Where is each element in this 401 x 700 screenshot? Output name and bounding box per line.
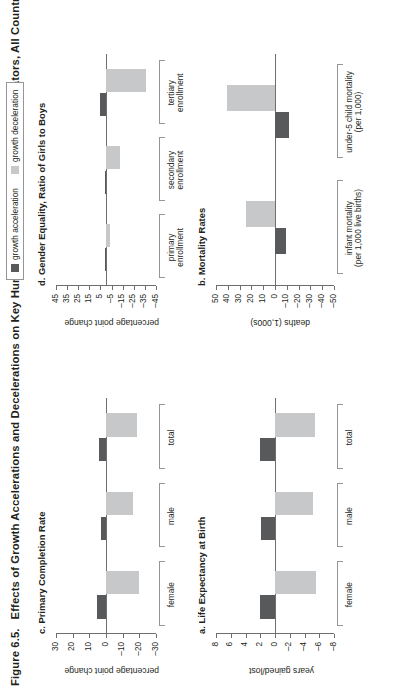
- y-axis-tick: [228, 286, 229, 290]
- category-label: primaryenrollment: [167, 209, 186, 286]
- category-bracket: [337, 483, 343, 548]
- y-axis-label: years gained/lost: [249, 666, 314, 676]
- y-axis-tick-label: –25: [129, 294, 137, 320]
- y-axis-tick: [334, 286, 335, 290]
- y-axis-tick-label: 40: [223, 294, 231, 320]
- y-axis-tick-label: –10: [282, 294, 290, 320]
- bar-growth-acceleration: [275, 229, 286, 255]
- y-axis-tick-label: 2: [256, 642, 264, 668]
- figure-canvas: Figure 6.5.Effects of Growth Acceleratio…: [0, 0, 401, 700]
- category-label: total: [167, 398, 176, 477]
- legend-swatch-accel: [11, 264, 19, 272]
- legend-label: growth acceleration: [10, 188, 20, 260]
- plot-area: 3020100–10–20–30percentage point changef…: [56, 398, 156, 634]
- y-axis-tick: [305, 634, 306, 638]
- y-axis-tick-label: –5: [107, 294, 115, 320]
- plot-area: 86420–2–4–6–8years gained/lostfemalemale…: [216, 398, 334, 634]
- y-axis-tick-label: –4: [300, 642, 308, 668]
- y-axis-tick-label: 20: [68, 642, 76, 668]
- y-axis-tick: [251, 286, 252, 290]
- y-axis-tick: [334, 634, 335, 638]
- y-axis-tick: [89, 634, 90, 638]
- category-bracket: [159, 561, 165, 626]
- bar-growth-deceleration: [275, 413, 315, 437]
- y-axis-tick: [299, 286, 300, 290]
- y-axis-tick-label: 30: [235, 294, 243, 320]
- panel-primary-completion: c. Primary Completion Rate3020100–10–20–…: [36, 366, 186, 686]
- category-label: female: [345, 555, 354, 634]
- y-axis-tick-label: –6: [315, 642, 323, 668]
- y-axis-tick: [145, 286, 146, 290]
- y-axis-tick-label: 4: [241, 642, 249, 668]
- y-axis-label: percentage point change: [64, 666, 159, 676]
- y-axis-tick-label: 20: [247, 294, 255, 320]
- category-label: female: [167, 555, 176, 634]
- bar-growth-deceleration: [227, 86, 275, 112]
- bar-growth-deceleration: [106, 69, 146, 92]
- panel-title: c. Primary Completion Rate: [36, 512, 47, 634]
- y-axis-tick-label: 5: [96, 294, 104, 320]
- bar-growth-acceleration: [260, 438, 275, 462]
- y-axis-tick: [134, 286, 135, 290]
- legend-swatch-decel: [11, 166, 19, 174]
- panel-mortality-rates: b. Mortality Rates50403020100–10–20–30–4…: [196, 12, 386, 342]
- bar-growth-deceleration: [246, 202, 276, 228]
- figure-number: Figure 6.5.: [9, 628, 21, 686]
- legend-item: growth deceleration: [10, 90, 20, 174]
- y-axis-tick: [260, 634, 261, 638]
- panel-title: d. Gender Equality, Ratio of Girls to Bo…: [36, 103, 47, 286]
- y-axis-tick: [78, 286, 79, 290]
- y-axis-tick: [216, 634, 217, 638]
- category-bracket: [159, 483, 165, 548]
- category-bracket: [159, 214, 165, 278]
- y-axis-tick-label: 50: [212, 294, 220, 320]
- category-label: male: [167, 477, 176, 556]
- category-bracket: [337, 561, 343, 626]
- y-axis-tick-label: 0: [271, 294, 279, 320]
- panel-title: a. Life Expectancy at Birth: [196, 517, 207, 634]
- bar-growth-acceleration: [100, 93, 106, 116]
- y-axis-tick: [310, 286, 311, 290]
- category-label: secondaryenrollment: [167, 131, 186, 208]
- legend-label: growth deceleration: [10, 90, 20, 162]
- y-axis-tick-label: 6: [226, 642, 234, 668]
- y-axis-label: percentage point change: [64, 318, 159, 328]
- category-bracket: [337, 64, 343, 159]
- y-axis-tick-label: –50: [330, 294, 338, 320]
- y-axis-tick-label: 30: [52, 642, 60, 668]
- category-label: male: [345, 477, 354, 556]
- y-axis-tick-label: –10: [118, 642, 126, 668]
- category-bracket: [337, 180, 343, 275]
- y-axis-tick-label: 15: [85, 294, 93, 320]
- y-axis-tick: [100, 286, 101, 290]
- category-label: infant mortality(per 1,000 live births): [345, 170, 364, 286]
- y-axis-tick: [231, 634, 232, 638]
- bar-growth-acceleration: [99, 438, 107, 462]
- y-axis-tick-label: –45: [152, 294, 160, 320]
- y-axis-tick-label: 0: [102, 642, 110, 668]
- bar-growth-acceleration: [261, 517, 275, 541]
- y-axis-tick-label: –30: [306, 294, 314, 320]
- y-axis-tick: [240, 286, 241, 290]
- plot-area: 453525155–5–15–25–35–45percentage point …: [56, 54, 156, 286]
- y-axis-tick-label: 35: [63, 294, 71, 320]
- y-axis-tick: [73, 634, 74, 638]
- y-axis-tick-label: –35: [140, 294, 148, 320]
- category-bracket: [159, 60, 165, 124]
- category-bracket: [337, 404, 343, 469]
- category-bracket: [159, 404, 165, 469]
- y-axis-tick-label: –40: [318, 294, 326, 320]
- y-axis-tick: [56, 286, 57, 290]
- y-axis-tick-label: 45: [52, 294, 60, 320]
- legend-item: growth acceleration: [10, 188, 20, 272]
- y-axis-tick: [112, 286, 113, 290]
- y-axis-tick: [123, 286, 124, 290]
- bar-growth-acceleration: [275, 113, 289, 139]
- y-axis-tick: [89, 286, 90, 290]
- category-label: total: [345, 398, 354, 477]
- y-axis-tick: [287, 286, 288, 290]
- y-axis-tick-label: 0: [271, 642, 279, 668]
- y-axis-tick-label: 10: [259, 294, 267, 320]
- plot-area: 50403020100–10–20–30–40–50deaths (1,000s…: [216, 54, 334, 286]
- y-axis-tick: [263, 286, 264, 290]
